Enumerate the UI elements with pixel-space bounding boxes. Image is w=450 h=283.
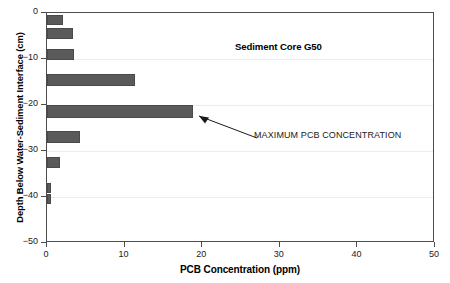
x-tick-mark (201, 242, 202, 247)
x-tick-mark (356, 242, 357, 247)
gridline (47, 197, 433, 198)
bar (47, 49, 74, 60)
x-tick-label: 20 (186, 249, 216, 259)
y-tick-mark (41, 58, 46, 59)
y-tick-label: −10 (10, 52, 38, 62)
chart-figure: Depth Below Water-Sediment Interface (cm… (0, 0, 450, 283)
y-tick-label: −50 (10, 236, 38, 246)
y-tick-label: 0 (10, 6, 38, 16)
x-tick-mark (46, 242, 47, 247)
x-tick-label: 0 (31, 249, 61, 259)
chart-title: Sediment Core G50 (235, 41, 322, 52)
x-tick-label: 10 (109, 249, 139, 259)
bar (47, 28, 73, 39)
bar (47, 131, 80, 143)
y-tick-label: −30 (10, 144, 38, 154)
bar (47, 74, 135, 86)
x-axis-title: PCB Concentration (ppm) (46, 264, 434, 275)
x-tick-label: 30 (264, 249, 294, 259)
plot-area: Sediment Core G50 (c) (46, 12, 434, 242)
y-tick-mark (41, 104, 46, 105)
y-tick-mark (41, 12, 46, 13)
bar (47, 194, 51, 204)
y-tick-label: −40 (10, 190, 38, 200)
y-tick-mark (41, 196, 46, 197)
bar (47, 183, 51, 193)
x-tick-mark (434, 242, 435, 247)
bar (47, 15, 63, 25)
bar (47, 105, 193, 118)
x-tick-mark (279, 242, 280, 247)
gridline (47, 151, 433, 152)
x-tick-label: 50 (419, 249, 449, 259)
bar (47, 157, 60, 168)
gridline (47, 59, 433, 60)
x-tick-label: 40 (341, 249, 371, 259)
y-tick-label: −20 (10, 98, 38, 108)
y-axis-title: Depth Below Water-Sediment Interface (cm… (14, 13, 25, 243)
x-tick-mark (124, 242, 125, 247)
y-tick-mark (41, 150, 46, 151)
annotation-label: MAXIMUM PCB CONCENTRATION (254, 130, 401, 140)
